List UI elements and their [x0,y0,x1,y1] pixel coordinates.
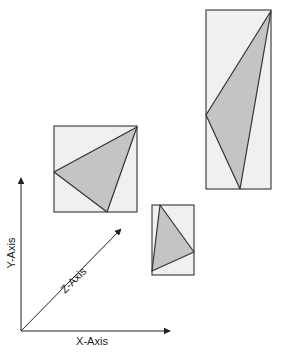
box-tall [206,10,271,189]
z-axis-label: Z-Axis [58,265,89,296]
x-axis-label: X-Axis [76,335,108,347]
box-small [152,205,194,275]
y-axis-label: Y-Axis [5,237,17,268]
box-large-square [54,126,137,212]
projection-diagram: X-Axis Y-Axis Z-Axis [0,0,283,353]
